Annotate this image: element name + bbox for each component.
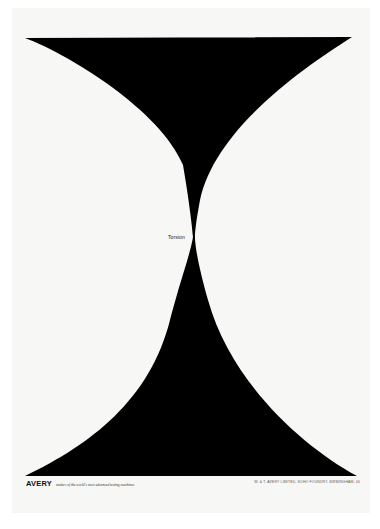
tagline: makers of the world's most advanced test…: [56, 483, 134, 487]
hourglass-shape: [0, 0, 380, 529]
torsion-figure: [25, 37, 357, 476]
torsion-label: Torsion: [168, 234, 185, 240]
address-line: W. & T. AVERY LIMITED, SOHO FOUNDRY, BIR…: [254, 480, 360, 484]
brand-logo: AVERY: [26, 479, 52, 488]
footer-brand: AVERY makers of the world's most advance…: [26, 479, 134, 488]
